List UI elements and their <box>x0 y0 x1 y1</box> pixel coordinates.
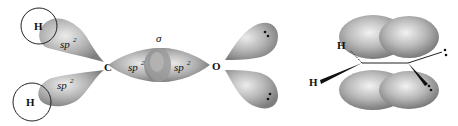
carbon-label: C <box>104 61 112 73</box>
pi-bond-panel: H H <box>309 15 447 110</box>
ch-bottom-hybrid-sup: 2 <box>70 77 74 85</box>
co-oxygen-hybrid-label: sp <box>174 61 184 73</box>
o-lone-pair-bottom-lobe <box>225 70 278 108</box>
o-lone-pair-top-lobe <box>225 23 278 60</box>
ch-top-hybrid-sup: 2 <box>73 36 77 44</box>
ch-top-hybrid-label: sp <box>60 38 70 50</box>
ch-bottom-sp2-lobe <box>38 70 104 106</box>
sigma-framework-panel: H H sp 2 sp 2 C σ sp 2 sp 2 O <box>13 8 278 121</box>
h-bottom-label: H <box>26 96 35 108</box>
pi-lone-pair-dots-upper <box>444 49 448 57</box>
h-front-label: H <box>309 76 318 88</box>
co-oxygen-hybrid-sup: 2 <box>187 59 191 67</box>
formaldehyde-orbital-diagram: H H sp 2 sp 2 C σ sp 2 sp 2 O <box>0 0 458 126</box>
co-carbon-hybrid-sup: 2 <box>141 59 145 67</box>
ch-top-sp2-lobe <box>39 19 104 62</box>
pi-top-lobe-oxygen <box>379 16 439 58</box>
oxygen-label: O <box>212 60 221 72</box>
h-back-label: H <box>337 39 346 51</box>
h-top-label: H <box>34 20 43 32</box>
co-carbon-hybrid-label: sp <box>128 61 138 73</box>
ch-bottom-hybrid-label: sp <box>57 79 67 91</box>
sigma-bond-label: σ <box>156 32 162 44</box>
